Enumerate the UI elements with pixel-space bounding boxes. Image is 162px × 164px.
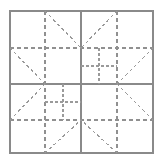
quilt-block-diagram: [0, 0, 162, 164]
pattern-canvas: [0, 0, 162, 164]
